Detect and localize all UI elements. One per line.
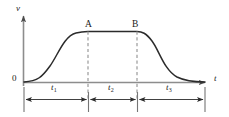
point-label-a: A <box>85 20 92 30</box>
velocity-time-figure: v t 0 A B t1 t2 t3 <box>0 0 229 117</box>
velocity-curve <box>24 32 205 83</box>
origin-label: 0 <box>12 74 17 83</box>
interval-label-t3: t3 <box>166 83 172 93</box>
interval-label-t2-subscript: 2 <box>111 87 114 93</box>
interval-label-t1-subscript: 1 <box>54 87 57 93</box>
interval-label-t1: t1 <box>51 83 57 93</box>
interval-label-t3-subscript: 3 <box>169 87 172 93</box>
point-label-b: B <box>132 20 138 30</box>
x-axis-label: t <box>214 74 217 83</box>
y-axis-label: v <box>16 4 20 13</box>
figure-canvas <box>0 0 229 117</box>
interval-label-t2: t2 <box>108 83 114 93</box>
